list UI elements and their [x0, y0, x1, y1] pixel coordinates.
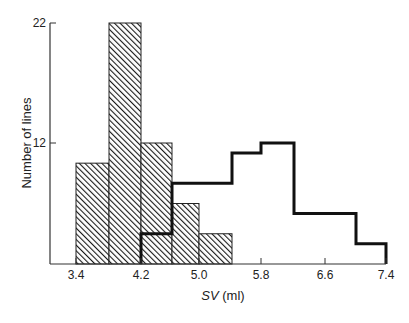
x-tick-label: 6.6 — [317, 268, 334, 282]
x-axis-label: SV (ml) — [201, 288, 244, 303]
x-tick-label: 5.0 — [191, 268, 208, 282]
hatched-bar — [76, 163, 109, 264]
histogram-chart: 1222 3.44.25.05.86.67.4 Number of lines … — [0, 0, 409, 323]
hatched-bar — [172, 204, 199, 265]
x-tick-label: 3.4 — [68, 268, 85, 282]
hatched-bar — [199, 234, 232, 264]
x-axis-label-unit: (ml) — [219, 288, 245, 303]
x-tick-label: 5.8 — [253, 268, 270, 282]
x-tick-label: 7.4 — [378, 268, 395, 282]
hatched-histogram-series — [76, 23, 232, 264]
x-axis-label-variable: SV — [201, 288, 220, 303]
y-ticks: 1222 — [33, 16, 56, 150]
y-tick-label: 22 — [33, 16, 47, 30]
y-axis-label: Number of lines — [19, 97, 34, 189]
y-tick-label: 12 — [33, 136, 47, 150]
x-tick-label: 4.2 — [133, 268, 150, 282]
hatched-bar — [109, 23, 141, 264]
hatched-bar — [141, 143, 172, 264]
